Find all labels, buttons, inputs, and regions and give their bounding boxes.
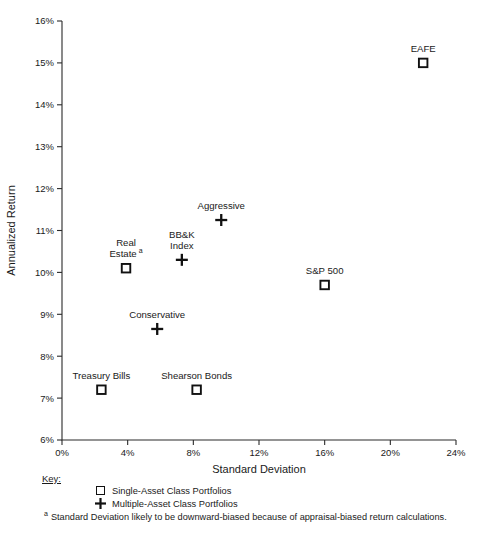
key-entry-label: Single-Asset Class Portfolios xyxy=(112,486,231,496)
y-axis-tick-label: 6% xyxy=(40,434,54,445)
data-point-label: Index xyxy=(170,240,194,251)
plot-canvas: 6%7%8%9%10%11%12%13%14%15%16%0%4%8%12%16… xyxy=(0,0,478,539)
data-point-square xyxy=(419,59,428,68)
x-axis-tick-label: 24% xyxy=(446,447,466,458)
data-point-label: Aggressive xyxy=(198,200,245,211)
x-axis-tick-label: 12% xyxy=(249,447,269,458)
key-entry-single-asset: Single-Asset Class Portfolios xyxy=(92,484,472,497)
footnote-marker: a xyxy=(44,510,48,517)
y-axis-tick-label: 13% xyxy=(35,141,55,152)
data-point-label: EAFE xyxy=(411,43,436,54)
key-entry-list: Single-Asset Class Portfolios Multiple-A… xyxy=(92,484,472,510)
footnote: aStandard Deviation likely to be downwar… xyxy=(44,508,464,524)
footnote-text: Standard Deviation likely to be downward… xyxy=(51,512,447,522)
y-axis-tick-label: 7% xyxy=(40,393,54,404)
y-axis-title: Annualized Return xyxy=(5,185,17,276)
x-axis-tick-label: 16% xyxy=(315,447,335,458)
square-marker-icon xyxy=(92,486,108,495)
data-point-label: Conservative xyxy=(129,309,185,320)
data-point-square xyxy=(97,385,106,394)
y-axis-tick-label: 11% xyxy=(36,225,55,236)
data-point-label: Estatea xyxy=(109,247,142,259)
data-point-square xyxy=(320,281,329,290)
data-point-label: S&P 500 xyxy=(306,265,344,276)
y-axis-tick-label: 9% xyxy=(40,309,54,320)
key-entry-label: Multiple-Asset Class Portfolios xyxy=(112,499,238,509)
x-axis-tick-label: 0% xyxy=(55,447,69,458)
data-point-label: Real xyxy=(116,237,136,248)
key-title: Key: xyxy=(42,473,61,484)
y-axis-tick-label: 16% xyxy=(35,15,55,26)
data-point-label: Shearson Bonds xyxy=(161,370,232,381)
y-axis-tick-label: 8% xyxy=(40,351,54,362)
data-point-label: BB&K xyxy=(169,229,195,240)
data-point-label: Treasury Bills xyxy=(73,370,131,381)
scatter-plot-figure: 6%7%8%9%10%11%12%13%14%15%16%0%4%8%12%16… xyxy=(0,0,478,539)
x-axis-tick-label: 20% xyxy=(381,447,401,458)
x-axis-tick-label: 4% xyxy=(121,447,135,458)
y-axis-tick-label: 10% xyxy=(35,267,55,278)
data-point-label-superscript: a xyxy=(139,247,143,254)
y-axis-tick-label: 12% xyxy=(35,183,55,194)
chart-key: Key: Single-Asset Class Portfolios Multi… xyxy=(42,468,472,510)
data-point-square xyxy=(122,264,130,273)
y-axis-tick-label: 14% xyxy=(35,99,55,110)
data-point-square xyxy=(192,385,201,394)
y-axis-tick-label: 15% xyxy=(35,57,55,68)
x-axis-tick-label: 8% xyxy=(186,447,200,458)
